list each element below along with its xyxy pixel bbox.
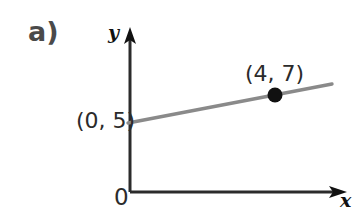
x-axis-label: x bbox=[340, 191, 351, 208]
y-axis-label: y bbox=[108, 23, 119, 42]
y-intercept-label: (0, 5) bbox=[76, 110, 135, 132]
data-point-marker bbox=[268, 88, 283, 103]
origin-label: 0 bbox=[114, 186, 129, 208]
coordinate-plane-svg bbox=[0, 0, 361, 208]
figure-container: a) y x 0 (0, 5) (4, 7) bbox=[0, 0, 361, 208]
plotted-line bbox=[128, 84, 332, 123]
marked-point-label: (4, 7) bbox=[245, 63, 304, 85]
